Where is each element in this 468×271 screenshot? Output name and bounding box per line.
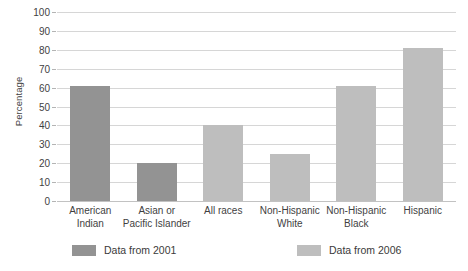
y-tick-mark <box>52 50 56 51</box>
y-tick-mark <box>52 201 56 202</box>
x-axis-category-label: Hispanic <box>380 205 466 218</box>
bar <box>403 48 443 201</box>
bar <box>137 163 177 201</box>
bar <box>203 125 243 201</box>
legend-swatch <box>297 245 321 256</box>
legend-item: Data from 2006 <box>297 244 401 256</box>
y-tick-mark <box>52 182 56 183</box>
bar <box>270 154 310 201</box>
y-tick-label: 30 <box>39 139 50 150</box>
bar <box>336 86 376 201</box>
legend-swatch <box>72 245 96 256</box>
y-tick-mark <box>52 125 56 126</box>
y-tick-label: 50 <box>39 101 50 112</box>
y-tick-label: 20 <box>39 158 50 169</box>
y-tick-label: 10 <box>39 177 50 188</box>
y-tick-mark <box>52 107 56 108</box>
chart-legend: Data from 2001Data from 2006 <box>0 244 468 262</box>
x-axis-category-label-line: Black <box>313 218 399 231</box>
legend-label: Data from 2001 <box>104 244 176 256</box>
y-tick-label: 90 <box>39 25 50 36</box>
x-axis-category-label-line: Pacific Islander <box>114 218 200 231</box>
y-tick-label: 40 <box>39 120 50 131</box>
legend-item: Data from 2001 <box>72 244 176 256</box>
y-tick-mark <box>52 69 56 70</box>
y-tick-mark <box>52 12 56 13</box>
y-tick-mark <box>52 31 56 32</box>
gridline: 0 <box>57 201 456 202</box>
bar <box>70 86 110 201</box>
y-tick-mark <box>52 163 56 164</box>
bar-chart: Percentage 0102030405060708090100 Americ… <box>0 0 468 271</box>
x-axis-labels: AmericanIndianAsian orPacific IslanderAl… <box>57 205 456 239</box>
legend-label: Data from 2006 <box>329 244 401 256</box>
y-tick-label: 80 <box>39 44 50 55</box>
y-tick-label: 100 <box>33 7 50 18</box>
y-tick-mark <box>52 144 56 145</box>
y-tick-label: 70 <box>39 63 50 74</box>
y-axis-title: Percentage <box>13 57 24 147</box>
x-axis-category-label-line: Hispanic <box>380 205 466 218</box>
plot-area: 0102030405060708090100 <box>57 12 456 201</box>
bars-layer <box>57 12 456 201</box>
y-tick-label: 60 <box>39 82 50 93</box>
y-tick-mark <box>52 88 56 89</box>
